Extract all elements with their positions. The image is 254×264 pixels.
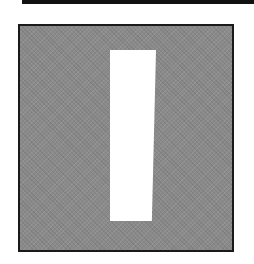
- gray-square: [18, 24, 234, 252]
- white-vertical-bar: [110, 50, 156, 221]
- top-rule: [22, 0, 254, 4]
